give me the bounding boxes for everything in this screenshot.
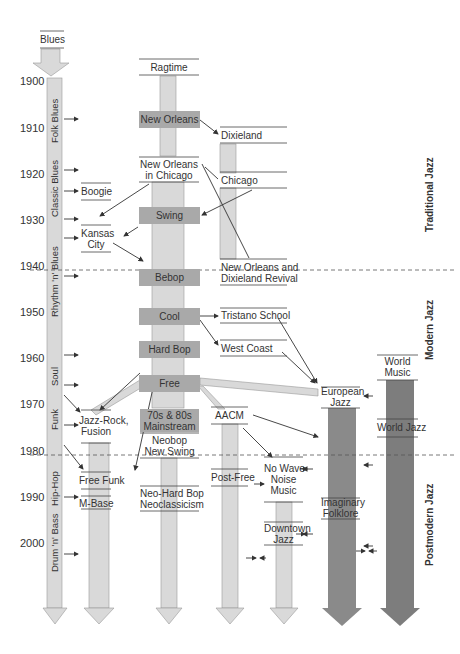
node-new-orleans: New Orleans	[139, 111, 200, 128]
blues-segment-dnb: Drum 'n' Bass	[49, 513, 60, 572]
node-post-free: Post-Free	[211, 472, 248, 483]
node-west-coast: West Coast	[221, 343, 273, 354]
blues-segment-rnb: Rhythm 'n' Blues	[49, 246, 60, 317]
node-cool: Cool	[139, 308, 200, 325]
node-downtown-jazz: Downtown Jazz	[264, 523, 303, 545]
blues-influence-arrows	[64, 119, 83, 554]
blues-segment-soul: Soul	[49, 367, 60, 386]
node-dixieland: Dixieland	[221, 130, 262, 141]
fusion-column	[84, 443, 114, 624]
node-aacm: AACM	[211, 410, 248, 421]
year-label: 1970	[20, 398, 44, 410]
year-label: 1990	[20, 491, 44, 503]
year-label: 1940	[20, 260, 44, 272]
blues-segment-funk: Funk	[49, 409, 60, 430]
year-label: 1950	[20, 306, 44, 318]
year-label: 1900	[20, 75, 44, 87]
year-label: 1930	[20, 214, 44, 226]
node-neo-hard-bop: Neo-Hard Bop Neoclassicism	[140, 488, 199, 510]
node-free-funk: Free Funk	[79, 475, 113, 486]
node-boogie: Boogie	[81, 186, 111, 197]
node-world-music: World Music	[377, 356, 418, 378]
node-swing: Swing	[139, 207, 200, 224]
node-jazz-rock-fusion: Jazz-Rock, Fusion	[79, 415, 113, 437]
year-label: 1980	[20, 445, 44, 457]
node-new-orleans-chicago: New Orleans in Chicago	[139, 159, 199, 181]
era-postmodern-jazz: Postmodern Jazz	[424, 484, 435, 566]
node-kansas-city: Kansas City	[81, 228, 111, 250]
blues-segment-hiphop: Hip-Hop	[49, 471, 60, 506]
blues-header: Blues	[40, 34, 64, 45]
era-modern-jazz: Modern Jazz	[424, 300, 435, 360]
node-european-jazz: European Jazz	[321, 386, 360, 408]
year-label: 1920	[20, 168, 44, 180]
node-chicago: Chicago	[221, 175, 258, 186]
node-neobop: Neobop New Swing	[140, 435, 199, 457]
diagram-graphics	[0, 0, 460, 654]
year-label: 1910	[20, 122, 44, 134]
node-free: Free	[139, 375, 200, 392]
node-bebop: Bebop	[139, 269, 200, 286]
blues-segment-classic: Classic Blues	[49, 160, 60, 217]
node-hard-bop: Hard Bop	[139, 341, 200, 358]
node-mainstream: 70s & 80s Mainstream	[140, 409, 199, 432]
node-world-jazz: World Jazz	[377, 422, 418, 433]
node-tristano-school: Tristano School	[221, 310, 290, 321]
year-label: 2000	[20, 537, 44, 549]
node-m-base: M-Base	[79, 498, 113, 509]
node-revival: New Orleans and Dixieland Revival	[221, 262, 298, 284]
node-no-wave: No Wave Noise Music	[264, 463, 303, 496]
node-imaginary-folklore: Imaginary Folklore	[321, 497, 360, 519]
era-traditional-jazz: Traditional Jazz	[424, 158, 435, 232]
year-label: 1960	[20, 352, 44, 364]
node-ragtime: Ragtime	[139, 62, 199, 73]
blues-segment-folk: Folk Blues	[49, 99, 60, 143]
